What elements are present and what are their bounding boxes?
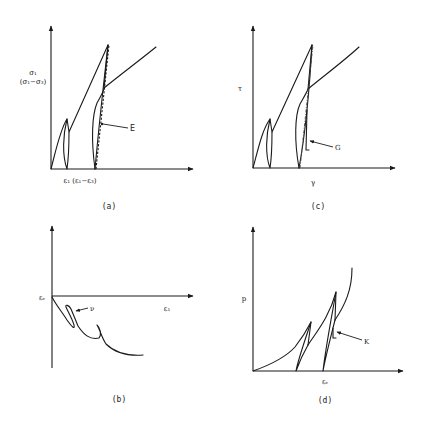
K-marker-segment xyxy=(333,328,336,338)
y-axis-label: p xyxy=(242,295,247,303)
loop-2 xyxy=(323,292,336,371)
secant-modulus-E-line xyxy=(96,45,109,169)
y-axis-label-line1: σ₁ xyxy=(29,69,37,77)
post-peak-curve xyxy=(104,47,156,88)
y-axis-label: εᵥ xyxy=(39,294,46,302)
panel-caption-a: (a) xyxy=(102,202,116,211)
panel-c: G τ γ (c) xyxy=(238,26,395,211)
E-leader-line xyxy=(103,124,128,128)
y-axis-label-line2: (σ₁−σ₃) xyxy=(20,78,47,86)
y-axis-label: τ xyxy=(238,85,242,93)
x-axis-label: ε₁ xyxy=(164,305,171,313)
G-leader-line xyxy=(310,141,333,147)
annotation-nu: ν xyxy=(90,305,94,313)
loop-1 xyxy=(296,322,311,371)
loading-curve xyxy=(253,322,311,371)
annotation-E: E xyxy=(130,124,135,133)
G-marker-segment xyxy=(306,110,309,150)
annotation-G: G xyxy=(335,144,341,152)
x-axis-label: ε₁ (ε₁−ε₃) xyxy=(64,177,97,185)
loading-curve xyxy=(253,45,312,168)
panel-caption-d: (d) xyxy=(318,396,332,405)
post-yield-curve xyxy=(335,268,352,320)
panel-caption-c: (c) xyxy=(311,202,325,211)
annotation-K: K xyxy=(364,338,370,346)
E-leader-dot xyxy=(101,123,103,125)
figure: E σ₁ (σ₁−σ₃) ε₁ (ε₁−ε₃) (a) G τ γ (c) ν … xyxy=(0,0,424,427)
panel-b: ν εᵥ ε₁ (b) xyxy=(39,226,193,404)
post-peak-curve xyxy=(308,47,359,89)
K-leader-line xyxy=(337,332,362,340)
panel-caption-b: (b) xyxy=(112,395,126,404)
x-axis-label: εᵥ xyxy=(322,378,329,386)
loading-curve xyxy=(51,45,108,169)
panel-a: E σ₁ (σ₁−σ₃) ε₁ (ε₁−ε₃) (a) xyxy=(20,26,193,211)
x-axis-label: γ xyxy=(311,179,315,187)
nu-leader-line xyxy=(76,308,88,311)
panel-d: K p εᵥ (d) xyxy=(242,227,403,405)
volumetric-strain-curve xyxy=(52,297,143,355)
